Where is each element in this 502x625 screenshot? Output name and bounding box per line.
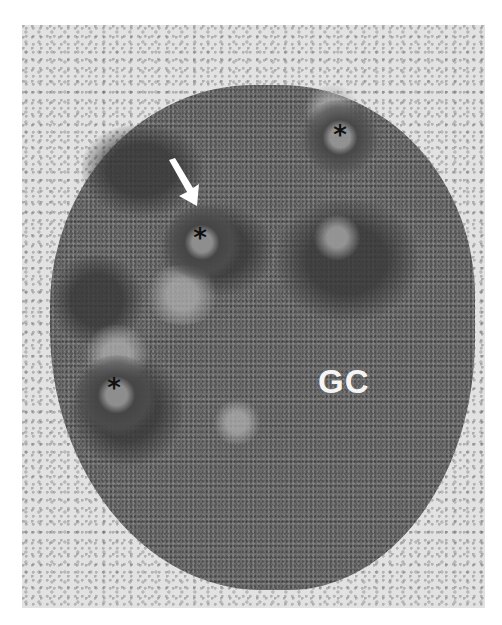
- light-patch: [312, 215, 362, 260]
- asterisk-marker: *: [193, 225, 207, 251]
- granular-component-label: GC: [318, 363, 370, 401]
- asterisk-marker: *: [333, 122, 347, 148]
- micrograph-figure: * * * GC: [22, 25, 485, 608]
- arrow-icon: [165, 158, 205, 208]
- asterisk-marker: *: [107, 375, 121, 401]
- light-patch: [212, 400, 262, 445]
